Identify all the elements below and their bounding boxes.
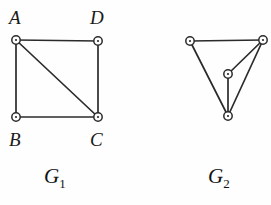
graph-vertex-center-dot [262, 39, 264, 41]
caption-subscript-g2: 2 [223, 176, 230, 191]
vertex-label-d: D [90, 8, 104, 27]
graph-vertex-center-dot [97, 116, 99, 118]
graph-figure: A D B C G1 G2 [0, 0, 271, 205]
graph-edge [16, 40, 98, 41]
vertex-label-b: B [9, 130, 21, 149]
graph-edge [190, 41, 228, 116]
graph-caption-g1: G1 [44, 166, 66, 190]
caption-subscript-g1: 1 [59, 176, 66, 191]
vertices-layer [12, 36, 267, 121]
graph-edge [228, 40, 263, 116]
vertex-label-c: C [90, 130, 103, 149]
graph-vertex-center-dot [227, 115, 229, 117]
graph-edge [16, 40, 98, 117]
graph-caption-g2: G2 [208, 166, 230, 190]
caption-symbol-g2: G [208, 164, 223, 188]
graph-edge [228, 40, 263, 74]
graph-edge [190, 40, 263, 41]
graph-drawing-canvas [0, 0, 271, 205]
graph-vertex-center-dot [15, 116, 17, 118]
graph-vertex-center-dot [189, 40, 191, 42]
graph-vertex-center-dot [97, 40, 99, 42]
graph-vertex-center-dot [15, 39, 17, 41]
vertex-label-a: A [9, 8, 21, 27]
caption-symbol-g1: G [44, 164, 59, 188]
graph-vertex-center-dot [227, 73, 229, 75]
